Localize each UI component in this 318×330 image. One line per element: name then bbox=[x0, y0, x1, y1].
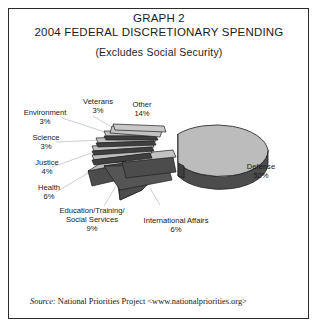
source-prefix: Source: bbox=[30, 297, 56, 306]
figure-container: GRAPH 2 2004 FEDERAL DISCRETIONARY SPEND… bbox=[0, 0, 318, 330]
leader-international bbox=[150, 188, 160, 205]
label-education: Education/Training/ Social Services 9% bbox=[50, 206, 134, 234]
label-veterans: Veterans 3% bbox=[74, 97, 122, 115]
label-international-affairs: International Affairs 6% bbox=[134, 216, 218, 234]
source-text: National Priorities Project <www.nationa… bbox=[58, 297, 247, 306]
label-environment: Environment 3% bbox=[12, 108, 78, 126]
label-science: Science 3% bbox=[18, 133, 74, 151]
label-justice: Justice 4% bbox=[20, 158, 74, 176]
source-note: Source: National Priorities Project <www… bbox=[30, 297, 247, 306]
label-health: Health 6% bbox=[22, 183, 76, 201]
pie-slices-minor bbox=[88, 124, 176, 200]
label-defense: Defense 52% bbox=[236, 162, 286, 180]
leader-education bbox=[104, 186, 116, 206]
label-other: Other 14% bbox=[122, 100, 162, 118]
